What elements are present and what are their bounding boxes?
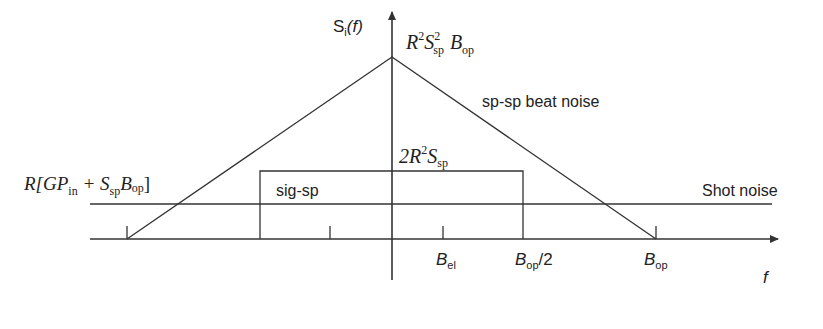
sig-sp-label: sig-sp xyxy=(276,182,319,199)
sp-sp-beat-noise-label: sp-sp beat noise xyxy=(482,93,600,110)
shot-noise-level-label: R[GPin + SspBop] xyxy=(23,173,150,198)
shot-noise-label: Shot noise xyxy=(702,182,778,199)
tick-label-bel: Bel xyxy=(436,250,456,271)
x-axis-label: f xyxy=(763,268,770,287)
noise-spectrum-diagram: Si(f) R2S2spBop sp-sp beat noise 2R2Ssp … xyxy=(0,0,823,329)
tick-label-bop-half: Bop/2 xyxy=(515,250,553,271)
y-axis-label: Si(f) xyxy=(333,17,363,38)
sig-sp-level-label: 2R2Ssp xyxy=(399,143,448,170)
peak-label: R2S2spBop xyxy=(405,29,474,57)
tick-label-bop: Bop xyxy=(644,250,668,271)
